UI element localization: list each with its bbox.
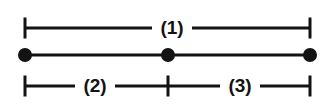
dimension-label-total: (1) <box>160 17 183 38</box>
dimension-label-left-part: (2) <box>83 75 106 96</box>
segment-dimension-diagram: (1) (2) (3) <box>0 0 334 111</box>
dimension-label-right-part: (3) <box>228 75 251 96</box>
diagram-canvas: (1) (2) (3) <box>0 0 334 111</box>
segment-point-left-endpoint <box>18 48 32 62</box>
segment-point-right-endpoint <box>303 48 317 62</box>
segment-point-midpoint <box>161 48 175 62</box>
